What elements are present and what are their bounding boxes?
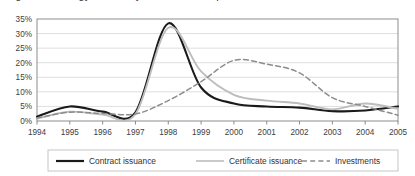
x-tick-label: 1995 xyxy=(61,128,80,137)
y-tick-label: 10% xyxy=(16,88,32,97)
x-tick-label: 1997 xyxy=(126,128,145,137)
x-tick-label: 2001 xyxy=(258,128,277,137)
y-tick-label: 30% xyxy=(16,30,32,39)
x-tick-label: 1996 xyxy=(94,128,113,137)
line-chart: 0%5%10%15%20%25%30%35% 19941995199619971… xyxy=(0,0,415,176)
chart-container: Figure 2. Energy efficiency market devel… xyxy=(0,0,415,176)
legend-label: Investments xyxy=(335,156,380,166)
y-tick-label: 35% xyxy=(16,15,32,24)
legend: Contract issuanceCertificate issuanceInv… xyxy=(56,156,380,166)
y-tick-label: 25% xyxy=(16,44,32,53)
x-tick-label: 2002 xyxy=(290,128,309,137)
legend-label: Contract issuance xyxy=(89,156,156,166)
legend-label: Certificate issuance xyxy=(229,156,302,166)
x-tick-label: 1994 xyxy=(28,128,47,137)
x-tick-label: 2000 xyxy=(225,128,244,137)
y-tick-label: 0% xyxy=(20,117,32,126)
y-axis-tick-labels: 0%5%10%15%20%25%30%35% xyxy=(16,15,32,126)
x-tick-label: 1998 xyxy=(159,128,178,137)
y-tick-label: 20% xyxy=(16,59,32,68)
y-tick-label: 15% xyxy=(16,73,32,82)
x-tick-label: 1999 xyxy=(192,128,211,137)
y-tick-label: 5% xyxy=(20,102,32,111)
series-line xyxy=(37,23,398,119)
x-axis-tick-labels: 1994199519961997199819992000200120022003… xyxy=(28,128,408,137)
x-axis-ticks xyxy=(37,121,398,125)
x-tick-label: 2005 xyxy=(389,128,408,137)
x-tick-label: 2004 xyxy=(356,128,375,137)
x-tick-label: 2003 xyxy=(323,128,342,137)
